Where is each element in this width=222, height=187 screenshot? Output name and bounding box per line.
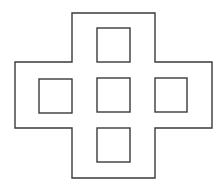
square-left [39,79,72,113]
cross-diagram [0,0,222,187]
square-top [97,28,130,62]
square-right [155,78,187,112]
square-bottom [97,128,130,162]
square-group [39,28,187,162]
cross-outline [15,13,212,178]
square-center [97,78,130,112]
